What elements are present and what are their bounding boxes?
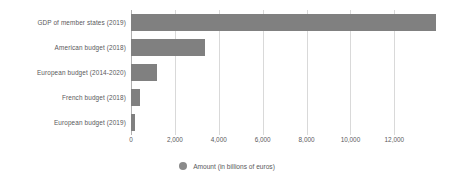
bar-row bbox=[131, 10, 447, 35]
x-tick-label: 4,000 bbox=[211, 136, 227, 143]
bar bbox=[131, 64, 157, 81]
category-label: European budget (2019) bbox=[0, 110, 126, 135]
bar bbox=[131, 114, 135, 131]
bar-row bbox=[131, 110, 447, 135]
value-axis-labels: 02,0004,0006,0008,00010,00012,000 bbox=[131, 136, 447, 150]
x-tick-label: 12,000 bbox=[385, 136, 405, 143]
x-tick-label: 0 bbox=[129, 136, 133, 143]
category-axis-labels: GDP of member states (2019)American budg… bbox=[0, 10, 126, 135]
category-label: American budget (2018) bbox=[0, 35, 126, 60]
category-label: GDP of member states (2019) bbox=[0, 10, 126, 35]
plot-area bbox=[131, 10, 447, 135]
bar-row bbox=[131, 85, 447, 110]
legend-label: Amount (in billions of euros) bbox=[193, 163, 275, 170]
chart-legend: Amount (in billions of euros) bbox=[0, 162, 454, 170]
category-label: European budget (2014-2020) bbox=[0, 60, 126, 85]
x-tick-label: 2,000 bbox=[167, 136, 183, 143]
bar-row bbox=[131, 60, 447, 85]
bar-rows bbox=[131, 10, 447, 135]
bar-chart: GDP of member states (2019)American budg… bbox=[0, 0, 454, 185]
legend-marker-icon bbox=[179, 162, 187, 170]
x-tick-label: 6,000 bbox=[255, 136, 271, 143]
bar-row bbox=[131, 35, 447, 60]
category-label: French budget (2018) bbox=[0, 85, 126, 110]
bar bbox=[131, 14, 436, 31]
x-tick-label: 8,000 bbox=[299, 136, 315, 143]
x-tick-label: 10,000 bbox=[341, 136, 361, 143]
bar bbox=[131, 89, 140, 106]
bar bbox=[131, 39, 205, 56]
